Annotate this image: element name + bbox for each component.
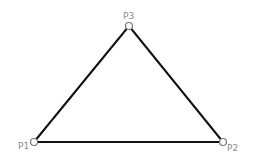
labels-group: P1P2P3 <box>18 11 238 153</box>
triangle-diagram: P1P2P3 <box>0 0 254 162</box>
vertex-p3-handle[interactable] <box>126 23 133 30</box>
edge-p2-p3 <box>129 26 223 142</box>
vertex-p1-handle[interactable] <box>31 139 38 146</box>
vertices-group <box>31 23 227 146</box>
vertex-p1-label: P1 <box>18 141 29 151</box>
vertex-p3-label: P3 <box>123 11 134 21</box>
vertex-p2-label: P2 <box>227 143 238 153</box>
edge-p3-p1 <box>34 26 129 142</box>
edges-group <box>34 26 223 142</box>
vertex-p2-handle[interactable] <box>220 139 227 146</box>
